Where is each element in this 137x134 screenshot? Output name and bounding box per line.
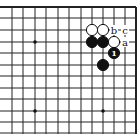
black-stone bbox=[97, 36, 108, 47]
white-stone bbox=[97, 24, 108, 35]
go-board: 1 bca bbox=[0, 0, 137, 134]
stone-move-number: 1 bbox=[111, 48, 117, 58]
white-stone bbox=[108, 36, 119, 47]
black-stone: 1 bbox=[108, 47, 119, 58]
black-stone bbox=[97, 59, 108, 70]
black-stone bbox=[86, 36, 97, 47]
point-label-b: b bbox=[111, 25, 117, 36]
point-label-a: a bbox=[122, 37, 128, 48]
white-stone bbox=[86, 24, 97, 35]
point-label-c: c bbox=[122, 25, 128, 36]
star-point bbox=[33, 109, 37, 113]
star-point bbox=[101, 109, 105, 113]
star-point bbox=[33, 40, 37, 44]
